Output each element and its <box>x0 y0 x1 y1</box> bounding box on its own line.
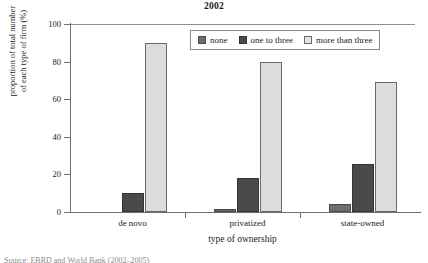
y-axis-tick-label: 100 <box>48 19 61 29</box>
x-axis-category-label: state-owned <box>341 218 384 228</box>
chart-title: 2002 <box>0 1 428 11</box>
bar-privatized-none <box>214 209 236 212</box>
x-axis-line <box>64 212 421 213</box>
plot-area: 020406080100 <box>70 24 415 212</box>
y-axis-title-line-1: proportion of total number <box>7 0 18 131</box>
x-axis-category-label: privatized <box>230 218 266 228</box>
bar-state-owned-none <box>329 204 351 212</box>
legend-label-none: none <box>210 35 228 45</box>
legend-item-none[interactable]: none <box>198 35 228 45</box>
bar-privatized-one-to-three <box>237 178 259 212</box>
legend-swatch-none-icon <box>198 36 206 44</box>
x-axis-category-label: de novo <box>118 218 147 228</box>
y-axis-tick <box>64 24 70 25</box>
y-axis-tick-label: 80 <box>53 57 62 67</box>
bar-state-owned-more-than-three <box>375 82 397 212</box>
legend-swatch-one-to-three-icon <box>239 36 247 44</box>
y-axis-tick-label: 20 <box>53 169 62 179</box>
x-axis-tick <box>185 212 186 218</box>
y-axis-tick <box>64 174 70 175</box>
bar-de-novo-more-than-three <box>145 43 167 212</box>
bar-de-novo-one-to-three <box>122 193 144 212</box>
bar-chart-figure: 2002 020406080100 proportion of total nu… <box>0 0 428 263</box>
y-axis-tick-label: 40 <box>53 132 62 142</box>
bar-state-owned-one-to-three <box>352 164 374 212</box>
y-axis-tick <box>64 99 70 100</box>
y-axis-tick-label: 0 <box>57 207 61 217</box>
y-axis-tick-label: 60 <box>53 94 62 104</box>
bar-privatized-more-than-three <box>260 62 282 212</box>
legend-item-one-to-three[interactable]: one to three <box>239 35 293 45</box>
legend-item-more-than-three[interactable]: more than three <box>304 35 372 45</box>
x-axis-tick <box>300 212 301 218</box>
y-axis-tick <box>64 212 70 213</box>
chart-legend: none one to three more than three <box>190 30 380 50</box>
x-axis-title: type of ownership <box>70 234 415 244</box>
y-axis-title-line-2: of each type of firm (%) <box>18 0 29 131</box>
legend-label-more-than-three: more than three <box>316 35 372 45</box>
legend-swatch-more-than-three-icon <box>304 36 312 44</box>
y-axis-title: proportion of total number of each type … <box>7 0 29 131</box>
y-axis-tick <box>64 62 70 63</box>
legend-label-one-to-three: one to three <box>251 35 293 45</box>
y-axis-tick <box>64 137 70 138</box>
source-caption: Source: EBRD and World Bank (2002–2005) <box>4 256 428 263</box>
